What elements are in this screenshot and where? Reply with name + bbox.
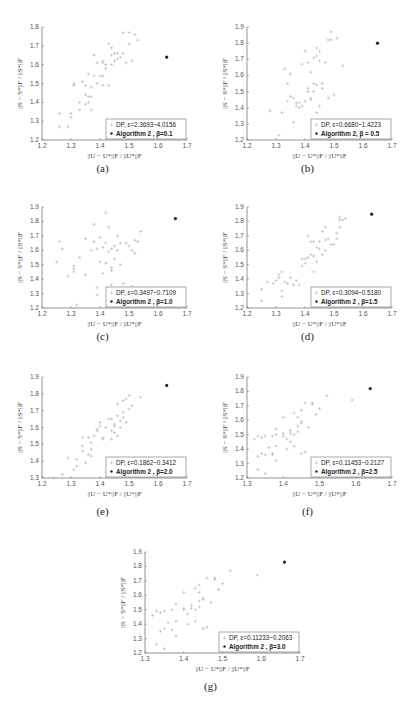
x-axis-label: ||U − U*||F / ||U*||F [87,152,141,160]
y-axis-label: ||S − S*||F / ||S*||F [16,58,24,109]
x-tick-label: 1.4 [300,142,309,149]
y-tick-label: 1.4 [30,275,39,282]
y-tick-label: 1.7 [30,42,39,49]
legend: DP, ε=0.11233~0.2063Algorithm 2 , β=3.0 [219,632,299,652]
legend: DP, ε=0.3497~0.7109Algorithm 2 , β=1.0 [106,287,186,307]
panel-e: 1.31.41.51.61.71.81.91.21.31.41.51.61.7|… [0,350,205,510]
y-tick-label: 1.5 [30,261,39,268]
x-tick-label: 1.6 [257,655,266,662]
x-tick-label: 1.2 [242,142,251,149]
legend-entry-dp: DP, ε=0.1862~0.3412 [116,459,177,466]
x-tick-label: 1.5 [329,142,338,149]
scatter-plot-f: 1.21.31.41.51.61.71.81.91.31.41.51.61.7|… [205,350,410,510]
x-tick-label: 1.3 [66,480,75,487]
y-tick-label: 1.9 [133,548,142,555]
legend-entry-algorithm2: Algorithm 2 , β=2.5 [321,468,378,476]
legend: DP, ε=0.6680~1.4223Algorithm 2, β = 0.5 [311,119,391,139]
x-tick-label: 1.3 [271,142,280,149]
x-tick-label: 1.2 [242,310,251,317]
legend-entry-dp: DP, ε=0.11453~0.2127 [321,459,385,466]
x-tick-label: 1.5 [315,480,324,487]
algorithm2-series [165,384,168,387]
legend: DP, ε=0.11453~0.2127Algorithm 2 , β=2.5 [311,457,391,477]
x-tick-label: 1.7 [295,655,304,662]
legend-entry-dp: DP, ε=2.3693~4.0156 [116,121,177,128]
x-tick-label: 1.7 [182,142,191,149]
scatter-plot-g: 1.21.31.41.51.61.71.81.91.31.41.51.61.7|… [103,525,318,685]
y-tick-label: 1.6 [30,61,39,68]
panel-g: 1.21.31.41.51.61.71.81.91.31.41.51.61.7|… [103,525,318,685]
x-tick-label: 1.4 [179,655,188,662]
y-tick-label: 1.6 [235,71,244,78]
x-tick-label: 1.7 [387,480,396,487]
x-tick-label: 1.7 [182,310,191,317]
x-tick-label: 1.6 [358,310,367,317]
y-axis-label: ||S − S*||F / ||S*||F [221,402,229,453]
x-axis-label: ||U − U*||F / ||U*||F [292,152,346,160]
x-tick-label: 1.3 [66,310,75,317]
scatter-plot-b: 1.21.31.41.51.61.71.81.91.21.31.41.51.61… [205,0,410,165]
x-tick-label: 1.5 [329,310,338,317]
y-tick-label: 1.9 [30,373,39,380]
x-tick-label: 1.6 [153,310,162,317]
y-tick-label: 1.7 [30,407,39,414]
algorithm2-series [174,217,177,220]
algorithm2-series [370,213,373,216]
y-tick-label: 1.8 [30,390,39,397]
x-axis-label: ||U − U*||F / ||U*||F [87,320,141,328]
scatter-plot-e: 1.31.41.51.61.71.81.91.21.31.41.51.61.7|… [0,350,205,510]
algorithm2-series [283,561,286,564]
x-tick-label: 1.6 [153,480,162,487]
panel-c: 1.21.31.41.51.61.71.81.91.21.31.41.51.61… [0,180,205,340]
y-tick-label: 1.9 [235,203,244,210]
y-tick-label: 1.4 [30,98,39,105]
x-tick-label: 1.6 [351,480,360,487]
legend: DP, ε=2.3693~4.0156Algorithm 2 , β=0.1 [106,119,186,139]
x-axis-label: ||U − U*||F / ||U*||F [195,665,249,673]
legend: DP, ε=0.3094~0.5180Algorithm 2 , β=1.5 [311,287,391,307]
y-tick-label: 1.3 [235,290,244,297]
y-axis-label: ||S − S*||F / ||S*||F [221,58,229,109]
algorithm2-series [369,387,372,390]
dp-series [58,31,139,128]
y-tick-label: 1.4 [133,620,142,627]
panel-a: 1.21.31.41.51.61.71.81.21.31.41.51.61.7|… [0,0,205,165]
x-tick-label: 1.2 [37,310,46,317]
y-tick-label: 1.3 [235,120,244,127]
caption-b: (b) [205,162,410,174]
y-tick-label: 1.7 [235,402,244,409]
scatter-plot-c: 1.21.31.41.51.61.71.81.91.21.31.41.51.61… [0,180,205,340]
x-tick-label: 1.5 [124,480,133,487]
y-tick-label: 1.4 [235,275,244,282]
y-tick-label: 1.7 [235,232,244,239]
panel-b: 1.21.31.41.51.61.71.81.91.21.31.41.51.61… [205,0,410,165]
y-tick-label: 1.9 [30,203,39,210]
y-tick-label: 1.3 [133,635,142,642]
y-tick-label: 1.7 [235,55,244,62]
x-tick-label: 1.7 [387,142,396,149]
x-tick-label: 1.5 [124,142,133,149]
x-tick-label: 1.7 [387,310,396,317]
y-tick-label: 1.8 [235,387,244,394]
legend-entry-algorithm2: Algorithm 2 , β=1.0 [116,298,173,306]
x-tick-label: 1.2 [37,142,46,149]
panel-d: 1.21.31.41.51.61.71.81.91.21.31.41.51.61… [205,180,410,340]
caption-g: (g) [103,680,318,692]
legend-entry-algorithm2: Algorithm 2 , β=3.0 [229,643,286,651]
x-tick-label: 1.2 [37,480,46,487]
legend-entry-algorithm2: Algorithm 2 , β=0.1 [116,130,173,138]
caption-e: (e) [0,505,205,517]
caption-d: (d) [205,330,410,342]
x-tick-label: 1.4 [95,310,104,317]
y-tick-label: 1.8 [133,562,142,569]
x-tick-label: 1.4 [95,480,104,487]
y-tick-label: 1.6 [30,424,39,431]
y-tick-label: 1.9 [235,373,244,380]
y-axis-label: ||S − S*||F / ||S*||F [221,232,229,283]
x-tick-label: 1.3 [140,655,149,662]
y-tick-label: 1.9 [235,23,244,30]
legend-entry-algorithm2: Algorithm 2 , β=2.0 [116,468,173,476]
y-tick-label: 1.4 [235,445,244,452]
legend-entry-algorithm2: Algorithm 2, β = 0.5 [321,130,380,138]
x-tick-label: 1.7 [182,480,191,487]
